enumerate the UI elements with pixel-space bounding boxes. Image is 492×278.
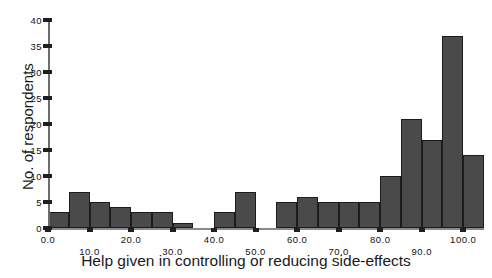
histogram-bar — [401, 119, 422, 228]
y-tick-label: 20 — [30, 119, 42, 130]
x-axis-title: Help given in controlling or reducing si… — [0, 252, 492, 270]
histogram-bar — [422, 140, 443, 228]
y-tick-label: 10 — [30, 171, 42, 182]
y-tick — [43, 122, 52, 126]
histogram-figure: No. of respondents 0510152025303540 0.01… — [0, 0, 492, 278]
histogram-bar — [69, 192, 90, 228]
histogram-bar — [318, 202, 339, 228]
x-tick-label: 60.0 — [287, 234, 308, 245]
histogram-bar — [339, 202, 360, 228]
x-tick — [45, 228, 51, 232]
histogram-bar — [152, 212, 173, 228]
histogram-bar — [442, 36, 463, 228]
x-tick — [170, 228, 176, 232]
y-tick-label: 15 — [30, 145, 42, 156]
x-tick — [377, 228, 383, 232]
y-tick-label: 40 — [30, 15, 42, 26]
y-tick-label: 5 — [36, 197, 42, 208]
histogram-bar — [235, 192, 256, 228]
y-tick — [43, 148, 52, 152]
x-tick — [460, 228, 466, 232]
histogram-bar — [380, 176, 401, 228]
y-tick — [43, 70, 52, 74]
y-tick — [43, 96, 52, 100]
y-tick-label: 25 — [30, 93, 42, 104]
histogram-bar — [131, 212, 152, 228]
x-tick — [419, 228, 425, 232]
x-tick — [294, 228, 300, 232]
y-tick-label: 30 — [30, 67, 42, 78]
y-tick — [43, 174, 52, 178]
x-tick-label: 40.0 — [204, 234, 225, 245]
y-tick — [43, 200, 52, 204]
x-tick-label: 80.0 — [370, 234, 391, 245]
x-tick — [128, 228, 134, 232]
y-tick — [43, 18, 52, 22]
histogram-bar — [297, 197, 318, 228]
x-tick — [336, 228, 342, 232]
x-tick-label: 0.0 — [41, 234, 56, 245]
plot-area: 0510152025303540 0.010.020.030.040.050.0… — [48, 20, 484, 228]
histogram-bar — [214, 212, 235, 228]
histogram-bar — [463, 155, 484, 228]
x-tick-label: 20.0 — [121, 234, 142, 245]
y-tick-label: 0 — [36, 223, 42, 234]
x-tick-label: 100.0 — [450, 234, 476, 245]
histogram-bar — [359, 202, 380, 228]
y-tick-label: 35 — [30, 41, 42, 52]
histogram-bar — [110, 207, 131, 228]
histogram-bar — [276, 202, 297, 228]
histogram-bar — [90, 202, 111, 228]
x-tick — [253, 228, 259, 232]
x-tick — [87, 228, 93, 232]
x-tick — [211, 228, 217, 232]
y-tick — [43, 44, 52, 48]
